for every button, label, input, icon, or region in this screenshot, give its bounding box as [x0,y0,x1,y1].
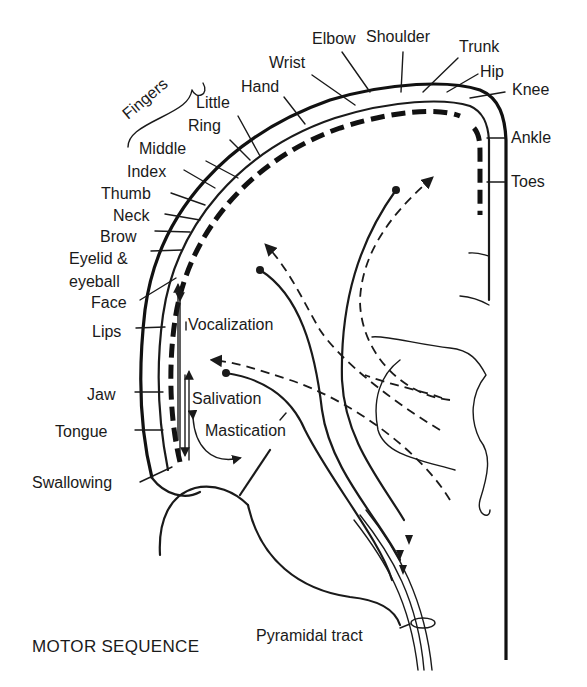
label-eyeball: eyeball [69,273,120,290]
pathway-upper-origin [392,186,400,194]
label-trunk: Trunk [459,38,500,55]
label-hand: Hand [241,78,279,95]
label-toes: Toes [511,173,545,190]
pathway-middle-origin [256,266,264,274]
label-ring: Ring [188,117,221,134]
label-fingers: Fingers [119,75,171,122]
labels-top: Elbow Shoulder Trunk Hip Knee Ankle Toes [312,28,551,190]
cortex-outer-outline [141,84,506,660]
pyramidal-tract-line-3 [366,510,432,670]
label-knee: Knee [512,81,549,98]
label-swallowing: Swallowing [32,474,112,491]
label-ankle: Ankle [511,129,551,146]
label-pyramidal-tract: Pyramidal tract [256,627,363,644]
right-wall-tick-2 [460,296,489,305]
label-thumb: Thumb [101,185,151,202]
label-hip: Hip [480,63,504,80]
label-index: Index [127,163,166,180]
label-neck: Neck [113,207,150,224]
label-little: Little [196,94,230,111]
tract-arrow-1 [405,535,413,545]
label-vocalization: Vocalization [188,316,273,333]
pathway-upper [342,190,404,520]
motor-strip-segments [171,112,460,462]
labels-functions: Vocalization Salivation Mastication [188,316,286,439]
label-eyelid: Eyelid & [69,250,128,267]
label-middle: Middle [139,140,186,157]
label-mastication: Mastication [205,422,286,439]
cortex-notch [240,450,270,495]
diagram-canvas: Elbow Shoulder Trunk Hip Knee Ankle Toes… [0,0,587,687]
pathway-middle [260,270,400,560]
cortex-inner-outline [159,102,489,470]
label-brow: Brow [100,228,137,245]
brainstem-bulb [160,487,248,555]
label-lips: Lips [92,323,121,340]
label-face: Face [91,294,127,311]
dashed-path-upper [360,178,450,400]
motor-strip-segments-leg [474,128,480,215]
right-inner-shape [372,337,490,515]
motor-sequence-diagram: Elbow Shoulder Trunk Hip Knee Ankle Toes… [0,0,587,687]
label-jaw: Jaw [87,386,116,403]
dashed-path-middle [266,245,440,430]
label-wrist: Wrist [269,54,306,71]
diagram-title: MOTOR SEQUENCE [32,637,199,656]
label-tongue: Tongue [55,423,108,440]
pathway-lower-origin [222,369,230,377]
label-salivation: Salivation [192,390,261,407]
label-shoulder: Shoulder [366,28,431,45]
right-wall-tick-1 [469,253,489,256]
label-elbow: Elbow [312,30,356,47]
labels-left: Lips Jaw Tongue Swallowing [32,323,121,491]
